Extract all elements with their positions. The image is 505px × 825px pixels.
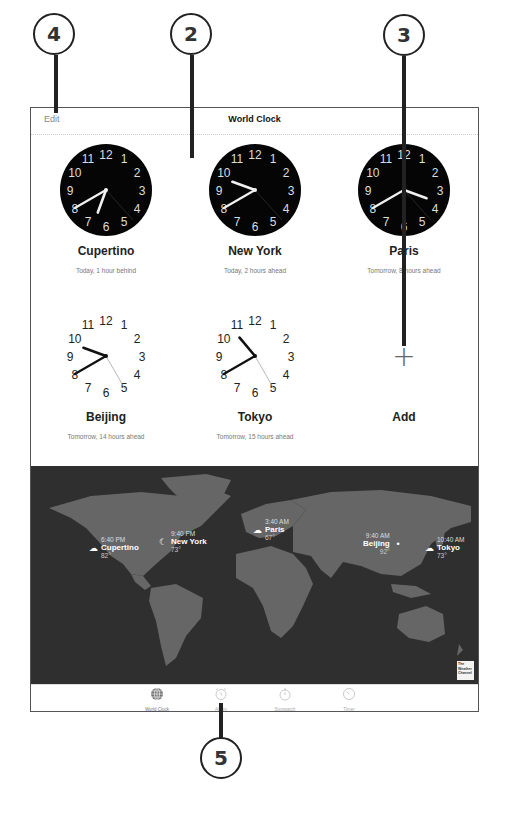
clock-beijing[interactable]: 123456789101112 Beijing Tomorrow, 14 hou… [31, 308, 181, 440]
stopwatch-icon [278, 687, 292, 701]
svg-text:4: 4 [432, 202, 439, 216]
city-name: Tokyo [180, 410, 330, 424]
svg-text:3: 3 [437, 184, 444, 198]
cloud-icon: ☁ [253, 526, 262, 534]
globe-icon [150, 687, 164, 701]
map-pin-cupertino[interactable]: ☁ 6:40 PM Cupertino 82° [101, 536, 139, 560]
svg-text:11: 11 [82, 152, 95, 166]
analog-clock-icon: 123456789101112 [58, 308, 154, 404]
time-offset: Today, 1 hour behind [31, 267, 181, 274]
analog-clock-icon: 123456789101112 [207, 308, 303, 404]
svg-text:2: 2 [283, 332, 290, 346]
svg-text:4: 4 [283, 202, 290, 216]
cloud-icon: ☁ [425, 544, 434, 552]
svg-text:9: 9 [216, 184, 223, 198]
analog-clock-icon: 123456789101112 [207, 142, 303, 238]
svg-text:2: 2 [432, 166, 439, 180]
map-pin-tokyo[interactable]: ☁ 10:40 AM Tokyo 73° [437, 536, 464, 560]
svg-text:6: 6 [252, 220, 259, 234]
timer-icon [342, 687, 356, 701]
cloud-icon: ☁ [89, 544, 98, 552]
pin-temp: 92° [363, 548, 390, 556]
time-offset: Tomorrow, 15 hours ahead [180, 433, 330, 440]
svg-text:10: 10 [68, 166, 82, 180]
svg-text:11: 11 [380, 152, 393, 166]
map-pin-beijing[interactable]: • 9:40 AM Beijing 92° [363, 532, 390, 556]
callout-3: 3 [383, 14, 425, 56]
svg-text:7: 7 [234, 215, 241, 229]
svg-text:3: 3 [139, 350, 146, 364]
svg-text:4: 4 [134, 368, 141, 382]
callout-label: 5 [214, 746, 228, 770]
svg-text:2: 2 [134, 332, 141, 346]
tab-stopwatch[interactable]: Stopwatch [255, 687, 315, 712]
svg-text:10: 10 [217, 166, 231, 180]
pin-city: Paris [265, 526, 289, 534]
tab-label: Timer [319, 707, 379, 712]
pin-city: Beijing [363, 540, 390, 548]
svg-text:12: 12 [99, 148, 113, 162]
svg-text:3: 3 [139, 184, 146, 198]
city-name: Cupertino [31, 244, 181, 258]
city-name: Beijing [31, 410, 181, 424]
callout-4: 4 [33, 13, 75, 55]
pin-temp: 73° [437, 552, 464, 560]
svg-text:6: 6 [103, 386, 110, 400]
clock-new-york[interactable]: 123456789101112 New York Today, 2 hours … [180, 142, 330, 274]
city-name: New York [180, 244, 330, 258]
svg-text:4: 4 [283, 368, 290, 382]
alarm-clock-icon [214, 687, 228, 701]
svg-text:7: 7 [85, 381, 92, 395]
callout-2: 2 [170, 13, 212, 55]
svg-text:6: 6 [252, 386, 259, 400]
svg-text:5: 5 [270, 215, 277, 229]
svg-text:1: 1 [270, 152, 277, 166]
tab-bar: World Clock Alarm Stopwatch Timer [31, 684, 478, 712]
svg-text:7: 7 [383, 215, 390, 229]
callout-4-leader [54, 55, 58, 113]
svg-text:10: 10 [366, 166, 380, 180]
callout-label: 2 [184, 22, 198, 46]
svg-text:5: 5 [419, 215, 426, 229]
pin-city: New York [171, 538, 207, 546]
svg-text:11: 11 [82, 318, 95, 332]
svg-text:7: 7 [85, 215, 92, 229]
clock-tokyo[interactable]: 123456789101112 Tokyo Tomorrow, 15 hours… [180, 308, 330, 440]
tab-label: World Clock [127, 707, 187, 712]
dot-icon: • [397, 540, 400, 548]
moon-icon: ☾ [159, 538, 167, 546]
clock-cupertino[interactable]: 123456789101112 Cupertino Today, 1 hour … [31, 142, 181, 274]
svg-text:2: 2 [134, 166, 141, 180]
map-pin-new-york[interactable]: ☾ 9:40 PM New York 73° [171, 530, 207, 554]
weather-channel-logo[interactable]: The Weather Channel [457, 661, 474, 680]
tab-label: Stopwatch [255, 707, 315, 712]
world-map: ☁ 6:40 PM Cupertino 82° ☾ 9:40 PM New Yo… [31, 466, 478, 684]
svg-text:9: 9 [216, 350, 223, 364]
callout-5-leader [219, 703, 223, 739]
svg-text:3: 3 [288, 184, 295, 198]
svg-text:4: 4 [134, 202, 141, 216]
svg-text:10: 10 [217, 332, 231, 346]
tab-timer[interactable]: Timer [319, 687, 379, 712]
svg-text:5: 5 [121, 215, 128, 229]
pin-temp: 73° [171, 546, 207, 554]
svg-text:12: 12 [99, 314, 113, 328]
analog-clock-icon: 123456789101112 [58, 142, 154, 238]
time-offset: Today, 2 hours ahead [180, 267, 330, 274]
svg-text:9: 9 [67, 350, 74, 364]
svg-text:12: 12 [248, 148, 262, 162]
svg-text:3: 3 [288, 350, 295, 364]
tab-world-clock[interactable]: World Clock [127, 687, 187, 712]
world-clock-screen: Edit World Clock 123456789101112 Cuperti… [30, 107, 479, 712]
svg-text:11: 11 [231, 318, 244, 332]
svg-text:1: 1 [270, 318, 277, 332]
time-offset: Tomorrow, 14 hours ahead [31, 433, 181, 440]
world-map-land [31, 466, 478, 684]
svg-text:2: 2 [283, 166, 290, 180]
map-pin-paris[interactable]: ☁ 3:40 AM Paris 67° [265, 518, 289, 542]
nav-bar: Edit World Clock [31, 108, 478, 135]
svg-text:10: 10 [68, 332, 82, 346]
pin-temp: 82° [101, 552, 139, 560]
callout-label: 4 [47, 22, 61, 46]
svg-text:11: 11 [231, 152, 244, 166]
